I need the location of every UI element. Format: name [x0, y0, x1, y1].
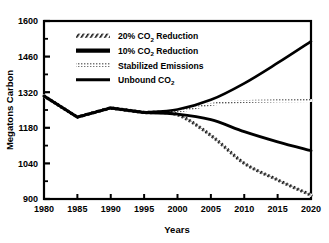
legend-label: Unbound CO2 — [118, 75, 175, 86]
chart-figure: 90010401180132014601600 1980198519901995… — [0, 0, 329, 243]
legend-entry: Stabilized Emissions — [0, 0, 329, 243]
chart-legend: 20% CO2 Reduction10% CO2 ReductionStabil… — [0, 0, 329, 243]
legend-swatch-dotted — [0, 0, 329, 243]
chart-canvas: 90010401180132014601600 1980198519901995… — [0, 0, 329, 243]
legend-label: Stabilized Emissions — [118, 61, 204, 71]
